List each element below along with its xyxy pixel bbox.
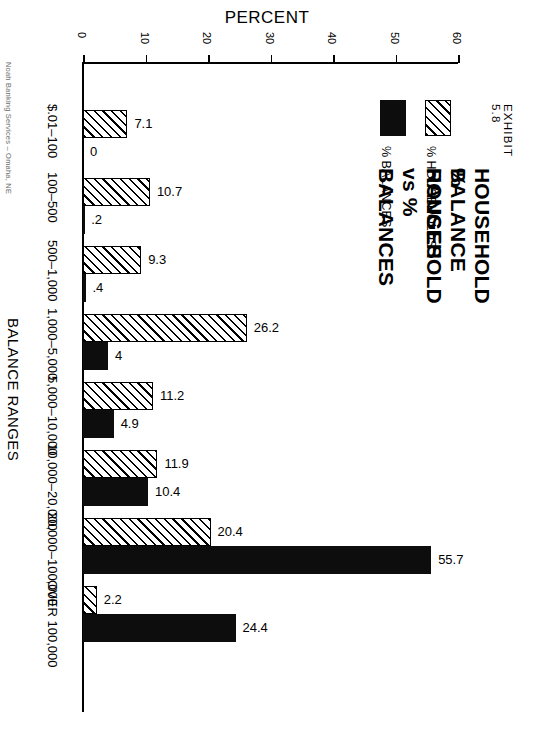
value-label-households-3: 26.2 — [254, 314, 279, 342]
x-tick-label-60: 60 — [451, 32, 463, 44]
bar-balances-6 — [83, 546, 431, 574]
bar-balances-4 — [83, 410, 114, 438]
value-label-households-1: 10.7 — [157, 178, 182, 206]
exhibit-number: EXHIBIT 5.8 — [490, 104, 514, 157]
source-credit: Noah Banking Services – Omaha, NE — [4, 62, 13, 194]
x-tick-50 — [396, 55, 398, 63]
x-tick-40 — [333, 55, 335, 63]
category-label-3: 1,000–5,000 — [45, 308, 60, 380]
y-axis-title: BALANCE RANGES — [5, 318, 22, 461]
value-label-households-2: 9.3 — [148, 246, 166, 274]
value-label-balances-6: 55.7 — [438, 546, 463, 574]
value-label-balances-3: 4 — [115, 342, 122, 370]
value-label-households-0: 7.1 — [134, 110, 152, 138]
x-tick-label-30: 30 — [264, 32, 276, 44]
x-tick-label-0: 0 — [76, 32, 88, 38]
x-tick-label-50: 50 — [389, 32, 401, 44]
value-label-balances-4: 4.9 — [121, 410, 139, 438]
solid-black-swatch — [380, 100, 406, 136]
bar-balances-5 — [83, 478, 148, 506]
bar-households-5 — [83, 450, 157, 478]
x-tick-10 — [146, 55, 148, 63]
value-label-balances-5: 10.4 — [155, 478, 180, 506]
x-tick-20 — [208, 55, 210, 63]
value-label-households-6: 20.4 — [218, 518, 243, 546]
bar-households-4 — [83, 382, 153, 410]
category-label-1: 100–500 — [45, 172, 60, 223]
category-label-7: OVER 100,000 — [45, 580, 60, 667]
x-tick-60 — [458, 55, 460, 63]
bar-households-0 — [83, 110, 127, 138]
value-label-balances-0: 0 — [90, 138, 97, 166]
x-tick-label-20: 20 — [201, 32, 213, 44]
x-axis-title: PERCENT — [0, 8, 534, 28]
x-tick-30 — [271, 55, 273, 63]
value-label-households-4: 11.2 — [160, 382, 184, 410]
value-label-households-7: 2.2 — [104, 586, 122, 614]
bar-households-1 — [83, 178, 150, 206]
x-tick-label-10: 10 — [139, 32, 151, 44]
category-label-0: $.01–100 — [45, 104, 60, 158]
bar-households-6 — [83, 518, 211, 546]
bar-balances-1 — [83, 206, 85, 234]
bar-households-2 — [83, 246, 141, 274]
x-tick-label-40: 40 — [326, 32, 338, 44]
category-label-2: 500–1,000 — [45, 240, 60, 301]
value-label-balances-2: .4 — [93, 274, 104, 302]
chart-title-line-2: % HOUSEHOLD vs % BALANCES — [374, 168, 470, 304]
bar-balances-7 — [83, 614, 236, 642]
value-label-balances-7: 24.4 — [243, 614, 268, 642]
bar-households-7 — [83, 586, 97, 614]
bar-households-3 — [83, 314, 247, 342]
x-tick-0 — [83, 55, 85, 63]
hatched-swatch — [425, 100, 451, 136]
value-label-households-5: 11.9 — [164, 450, 188, 478]
plot-area: 0102030405060 7.1010.7.29.3.426.2411.24.… — [83, 62, 458, 712]
bar-balances-2 — [83, 274, 86, 302]
bar-balances-3 — [83, 342, 108, 370]
value-label-balances-1: .2 — [91, 206, 102, 234]
